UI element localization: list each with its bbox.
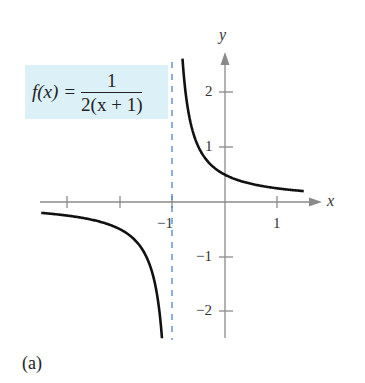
figure-caption: (a) <box>22 353 42 374</box>
y-axis-arrow-icon <box>221 52 230 65</box>
curve-right-branch <box>182 59 303 192</box>
formula-label: f(x) = 1 2(x + 1) <box>25 65 168 119</box>
chart-canvas <box>0 0 365 383</box>
y-axis-label: y <box>219 26 226 44</box>
y-tick-label-2: 2 <box>205 83 213 100</box>
formula-equals: = <box>64 81 75 103</box>
y-tick-label-neg2: −2 <box>196 302 212 319</box>
formula-lhs: f(x) <box>32 81 58 103</box>
x-tick-label-1: 1 <box>273 215 281 232</box>
x-tick-label-neg1: −1 <box>157 215 173 232</box>
x-axis-label: x <box>327 192 334 210</box>
y-tick-label-neg1: −1 <box>196 248 212 265</box>
formula-denominator: 2(x + 1) <box>81 92 142 114</box>
x-axis-arrow-icon <box>309 198 322 207</box>
y-tick-label-1: 1 <box>205 138 213 155</box>
formula-numerator: 1 <box>107 71 117 92</box>
formula-fraction: 1 2(x + 1) <box>81 71 142 114</box>
curve-left-branch <box>41 213 162 338</box>
